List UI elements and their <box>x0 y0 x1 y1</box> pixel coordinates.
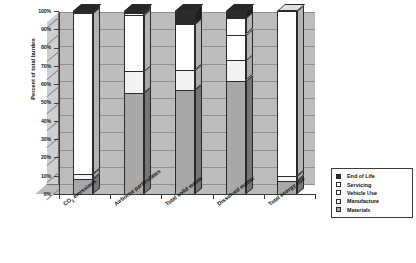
legend-item[interactable]: Materials <box>336 206 409 214</box>
legend-swatch-icon <box>336 182 341 187</box>
y-axis-line <box>59 12 60 195</box>
bar-segment <box>226 11 246 18</box>
legend-item[interactable]: Servicing <box>336 180 409 188</box>
legend-item-label: Servicing <box>347 182 371 188</box>
y-axis-tick <box>54 157 59 158</box>
bar-segment-side <box>93 7 100 174</box>
legend-item-label: Manufacture <box>347 198 379 204</box>
bar-segment <box>124 15 144 72</box>
y-axis-tick <box>54 29 59 30</box>
y-axis-tick <box>54 48 59 49</box>
y-axis-tick-label: 40% <box>25 118 51 124</box>
y-axis-tick-label: 10% <box>25 173 51 179</box>
y-axis-tick-label: 60% <box>25 81 51 87</box>
legend: End of LifeServicingVehicle UseManufactu… <box>331 168 413 218</box>
y-axis-tick <box>54 66 59 67</box>
y-axis-tick <box>54 139 59 140</box>
legend-item[interactable]: Manufacture <box>336 197 409 205</box>
bar-segment <box>124 11 144 13</box>
y-axis-tick <box>54 176 59 177</box>
legend-swatch-icon <box>336 174 341 179</box>
x-axis-tick <box>264 194 265 199</box>
bar-segment <box>73 13 93 174</box>
bar-segment-side <box>297 5 304 176</box>
x-axis-tick <box>110 194 111 199</box>
legend-item-label: End of Life <box>347 173 375 179</box>
legend-swatch-icon <box>336 199 341 204</box>
bar-segment-side <box>144 9 151 72</box>
y-axis-tick <box>54 84 59 85</box>
bar-segment <box>226 60 246 80</box>
y-axis-tick-label: 50% <box>25 99 51 105</box>
bar-segment <box>175 70 195 90</box>
bar-segment <box>175 11 195 24</box>
legend-swatch-icon <box>336 190 341 195</box>
x-axis-tick <box>59 194 60 199</box>
bar-segment <box>124 93 144 194</box>
y-axis-tick-label: 30% <box>25 136 51 142</box>
y-axis-tick-label: 80% <box>25 44 51 50</box>
bar-column <box>277 11 297 194</box>
bar-segment <box>73 11 93 13</box>
legend-item-label: Materials <box>347 207 370 213</box>
bar-column <box>175 11 195 194</box>
bar-column <box>124 11 144 194</box>
x-axis-tick <box>213 194 214 199</box>
y-axis-title: Percent of total burden <box>30 14 36 124</box>
y-axis-tick <box>54 11 59 12</box>
y-axis-tick-label: 70% <box>25 63 51 69</box>
y-axis-tick-label: 20% <box>25 154 51 160</box>
bar-segment <box>124 71 144 93</box>
y-axis-tick <box>54 103 59 104</box>
x-axis-tick <box>161 194 162 199</box>
bar-column <box>73 11 93 194</box>
y-axis-tick <box>54 121 59 122</box>
legend-item-label: Vehicle Use <box>347 190 377 196</box>
bar-segment <box>226 35 246 61</box>
bar-segment <box>124 13 144 15</box>
y-axis-tick-label: 100% <box>25 8 51 14</box>
x-axis-tick <box>315 194 316 199</box>
legend-item[interactable]: Vehicle Use <box>336 189 409 197</box>
legend-item[interactable]: End of Life <box>336 172 409 180</box>
bar-segment-side <box>195 18 202 70</box>
bar-segment <box>175 24 195 70</box>
y-axis-tick-label: 0% <box>25 191 51 197</box>
bar-segment <box>175 90 195 194</box>
y-axis-tick-label: 90% <box>25 26 51 32</box>
plot-area <box>47 12 315 194</box>
stacked-bar-chart: 0%10%20%30%40%50%60%70%80%90%100% Percen… <box>0 0 416 263</box>
bar-column <box>226 11 246 194</box>
legend-swatch-icon <box>336 207 341 212</box>
bar-segment <box>226 18 246 34</box>
bar-segment <box>73 174 93 179</box>
bar-segment <box>226 81 246 194</box>
bar-segment <box>277 11 297 176</box>
